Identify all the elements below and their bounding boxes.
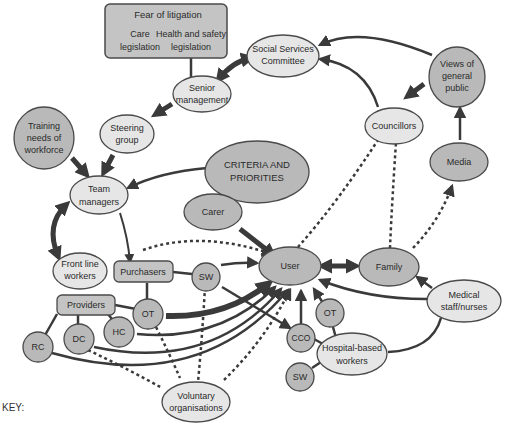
care-legislation-line1: Care: [130, 29, 150, 39]
edge-team-purchasers: [120, 213, 130, 262]
node-hc: HC: [104, 317, 134, 347]
node-purchasers: Purchasers: [114, 261, 173, 282]
edge-providers-ot: [115, 305, 136, 309]
edge-public-social-services: [320, 37, 432, 55]
label: Providers: [67, 300, 106, 310]
label: workers: [335, 356, 368, 366]
key-label: KEY:: [2, 402, 24, 413]
label: OT: [142, 309, 155, 319]
label: Social Services: [252, 44, 314, 54]
node-front-line-workers: Front line workers: [53, 253, 107, 289]
node-dc: DC: [64, 324, 94, 354]
edge-criteria-team: [128, 168, 207, 188]
label: PRIORITIES: [230, 172, 284, 183]
edge-dotted-purchasers-user: [143, 241, 272, 254]
node-councillors: Councillors: [365, 108, 423, 144]
node-criteria-and-priorities: CRITERIA AND PRIORITIES: [205, 141, 309, 203]
node-sw-social-worker: SW: [192, 263, 220, 291]
label: managers: [79, 197, 120, 207]
edge-senior-social-services: [219, 58, 250, 79]
node-media: Media: [430, 143, 488, 181]
label: Family: [376, 262, 403, 272]
label: SW: [293, 372, 308, 382]
label: SW: [199, 272, 214, 282]
label: Senior: [189, 83, 215, 93]
edge-training-team: [72, 158, 86, 174]
influence-diagram: Fear of litigation Care legislation Heal…: [0, 0, 505, 434]
edge-team-frontline: [53, 205, 66, 256]
legislation-box: Fear of litigation Care legislation Heal…: [105, 4, 227, 58]
edge-sw-user: [221, 263, 257, 265]
label: Committee: [261, 56, 305, 66]
label: Carer: [202, 207, 225, 217]
edge-dotted-family-councillors: [390, 128, 397, 248]
edge-medical-hospital: [388, 318, 441, 352]
hs-legislation-line1: Health and safety: [156, 29, 227, 39]
label: Front line: [61, 259, 99, 269]
node-senior-management: Senior management: [173, 76, 231, 112]
node-sw-hospital: SW: [286, 363, 314, 391]
label: Steering: [110, 123, 144, 133]
edge-dotted-user-councillors: [298, 126, 387, 247]
edge-senior-steering: [156, 104, 172, 114]
diagram-canvas: Fear of litigation Care legislation Heal…: [0, 0, 505, 434]
label: CCO: [292, 333, 311, 343]
edge-purchasers-sw: [173, 272, 192, 274]
care-legislation-line2: legislation: [120, 42, 160, 52]
label: general: [442, 71, 472, 81]
edge-public-councillors: [408, 84, 424, 96]
label: Views of: [440, 59, 474, 69]
node-training-needs: Training needs of workforce: [14, 107, 74, 169]
node-carer: Carer: [184, 194, 242, 230]
label: Hospital-based: [322, 343, 382, 353]
node-rc: RC: [23, 332, 53, 362]
edge-ot-right-user: [314, 289, 323, 303]
node-cco: CCO: [287, 324, 315, 352]
label: Medical: [448, 290, 479, 300]
label: workers: [63, 271, 96, 281]
label: HC: [113, 327, 126, 337]
label: Voluntary: [177, 391, 215, 401]
label: organisations: [169, 403, 223, 413]
label: Councillors: [372, 121, 417, 131]
label: Team: [88, 184, 110, 194]
node-ot-hospital: OT: [316, 299, 344, 327]
label: User: [280, 261, 299, 271]
edge-ot-user: [166, 284, 268, 316]
label: public: [445, 83, 469, 93]
node-user: User: [259, 247, 321, 285]
node-steering-group: Steering group: [100, 115, 154, 153]
label: needs of: [27, 133, 62, 143]
node-family: Family: [359, 248, 419, 286]
node-medical-staff: Medical staff/nurses: [427, 280, 501, 322]
label: OT: [324, 308, 337, 318]
edge-councillors-social-services: [320, 59, 378, 107]
edge-dotted-family-media: [413, 186, 452, 248]
label: Media: [447, 157, 472, 167]
label: group: [115, 135, 138, 145]
edge-steering-team: [104, 155, 113, 172]
node-ot-occupational-therapist: OT: [133, 299, 163, 329]
edge-dotted-sw-voluntary: [198, 287, 205, 382]
edge-medical-family: [417, 277, 432, 288]
label: RC: [32, 342, 45, 352]
label: workforce: [23, 145, 63, 155]
label: CRITERIA AND: [224, 159, 290, 170]
node-social-services-committee: Social Services Committee: [247, 35, 319, 77]
label: Training: [28, 121, 60, 131]
label: DC: [73, 334, 86, 344]
node-views-of-public: Views of general public: [429, 47, 485, 107]
node-voluntary-organisations: Voluntary organisations: [162, 382, 230, 422]
edge-dotted-dc-voluntary: [88, 350, 162, 388]
fear-of-litigation-label: Fear of litigation: [134, 9, 202, 20]
label: staff/nurses: [441, 302, 488, 312]
label: Purchasers: [120, 267, 166, 277]
label: management: [176, 95, 229, 105]
node-team-managers: Team managers: [70, 176, 128, 214]
node-hospital-based-workers: Hospital-based workers: [317, 333, 387, 375]
hs-legislation-line2: legislation: [171, 42, 211, 52]
node-providers: Providers: [57, 295, 115, 315]
